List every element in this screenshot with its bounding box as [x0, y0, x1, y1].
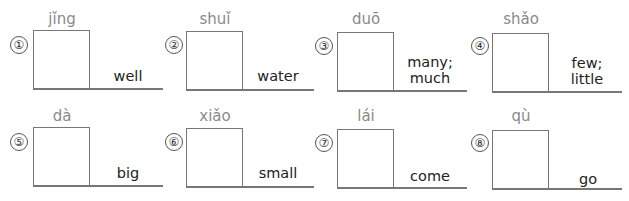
item-number: ⑦ — [315, 134, 333, 152]
pinyin-label: duō — [337, 10, 395, 28]
answer-underline — [186, 186, 314, 188]
pinyin-label: shǎo — [492, 10, 550, 28]
character-writing-box[interactable] — [492, 33, 549, 92]
answer-underline — [337, 90, 467, 92]
exercise-item-3: duō ③ many; much — [313, 10, 473, 110]
pinyin-label: dà — [33, 107, 91, 125]
character-writing-box[interactable] — [33, 127, 90, 186]
item-number: ① — [10, 36, 28, 54]
english-meaning: well — [108, 68, 148, 84]
answer-underline — [337, 187, 467, 189]
pinyin-label: jǐng — [33, 10, 91, 28]
pinyin-label: xiǎo — [186, 107, 244, 125]
answer-underline — [33, 185, 163, 187]
item-number: ② — [165, 36, 183, 54]
item-number: ⑤ — [10, 133, 28, 151]
character-writing-box[interactable] — [492, 130, 549, 189]
item-number: ⑥ — [165, 133, 183, 151]
answer-underline — [492, 91, 622, 93]
english-meaning: few; little — [562, 55, 612, 87]
answer-underline — [186, 89, 314, 91]
pinyin-label: shuǐ — [186, 10, 244, 28]
english-meaning: many; much — [405, 54, 455, 86]
character-writing-box[interactable] — [186, 128, 243, 187]
exercise-item-6: xiǎo ⑥ small — [153, 107, 313, 201]
english-meaning: go — [568, 171, 608, 187]
answer-underline — [492, 188, 622, 190]
english-meaning: big — [108, 165, 148, 181]
exercise-item-7: lái ⑦ come — [313, 107, 473, 201]
character-writing-box[interactable] — [337, 32, 394, 91]
character-writing-box[interactable] — [186, 31, 243, 90]
character-writing-box[interactable] — [337, 129, 394, 188]
character-writing-box[interactable] — [33, 30, 90, 89]
pinyin-label: lái — [337, 107, 395, 125]
item-number: ③ — [315, 37, 333, 55]
item-number: ⑧ — [471, 134, 489, 152]
answer-underline — [33, 88, 163, 90]
pinyin-label: qù — [492, 107, 550, 125]
exercise-item-5: dà ⑤ big — [0, 107, 160, 201]
english-meaning: come — [405, 168, 455, 184]
english-meaning: water — [253, 68, 303, 84]
exercise-item-4: shǎo ④ few; little — [468, 10, 628, 110]
item-number: ④ — [471, 37, 489, 55]
english-meaning: small — [253, 165, 303, 181]
exercise-item-1: jǐng ① well — [0, 10, 160, 110]
exercise-item-8: qù ⑧ go — [468, 107, 628, 201]
exercise-item-2: shuǐ ② water — [153, 10, 313, 110]
